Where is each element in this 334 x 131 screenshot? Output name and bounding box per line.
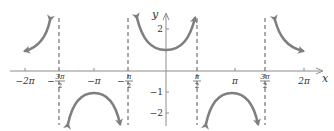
- tick-neg-3pi-2-num: 3π: [55, 73, 64, 81]
- tick-pi: π: [231, 76, 239, 86]
- tick-neg-2pi: −2π: [15, 76, 35, 86]
- branch-right-lower: [206, 93, 258, 124]
- tick-y-neg2: −2: [150, 108, 163, 118]
- tick-3pi-2-num: 3π: [260, 73, 269, 81]
- tick-y-neg1: −1: [150, 87, 163, 97]
- y-axis-label: y: [151, 8, 159, 21]
- tick-neg-pi-2-num: π: [126, 73, 132, 81]
- tick-3pi-2-den: 2: [263, 82, 267, 90]
- branch-left-upper: [25, 20, 50, 51]
- tick-neg-3pi-2-minus: −: [47, 76, 55, 86]
- branch-right-upper: [275, 20, 303, 51]
- tick-pi-2-den: 2: [195, 82, 199, 90]
- tick-neg-pi-2-minus: −: [117, 76, 125, 86]
- x-tick-labels: −2π − 3π 2 −π − π 2 π 2 π 3π 2 2π: [15, 73, 310, 90]
- tick-2pi: 2π: [297, 76, 311, 86]
- secant-graph: x y −2π − 3π 2 −π − π 2 π 2 π 3π: [0, 0, 334, 131]
- tick-neg-3pi-2-den: 2: [58, 82, 62, 90]
- branch-left-lower: [68, 93, 120, 124]
- tick-pi-2-num: π: [194, 73, 200, 81]
- x-axis-label: x: [322, 72, 329, 85]
- tick-neg-pi-2-den: 2: [127, 82, 131, 90]
- tick-neg-pi: −π: [87, 76, 102, 86]
- tick-y-2: 2: [157, 24, 163, 34]
